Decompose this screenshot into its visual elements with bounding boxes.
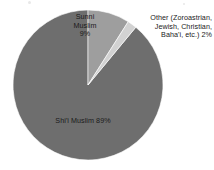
- pie-chart: Sunni Muslim 9% Other (Zoroastrian, Jewi…: [0, 0, 214, 170]
- pie-label-shii-muslim: Shi'i Muslim 89%: [28, 117, 138, 126]
- scan-artifact-left: [28, 1, 31, 4]
- scan-artifact-right: [183, 3, 185, 5]
- pie-label-other: Other (Zoroastrian, Jewish, Christian, B…: [114, 14, 212, 40]
- pie-label-sunni-muslim: Sunni Muslim 9%: [62, 13, 108, 39]
